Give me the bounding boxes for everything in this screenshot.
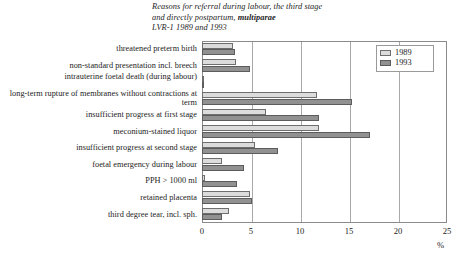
legend-label-1993: 1993 — [395, 58, 412, 67]
legend-item-1993: 1993 — [380, 58, 430, 67]
y-axis-label: non-standard presentation incl. breech — [1, 61, 197, 70]
bar-1989 — [202, 142, 255, 148]
bar-1989 — [202, 109, 266, 115]
chart-title-line-1: Reasons for referral during labour, the … — [152, 2, 452, 13]
bar-1989 — [202, 43, 233, 49]
bar-1993 — [202, 82, 204, 88]
bar-1989 — [202, 191, 250, 197]
y-axis-label: insufficient progress at second stage — [1, 143, 197, 152]
bar-1989 — [202, 158, 222, 164]
bar-group — [202, 76, 447, 93]
legend-item-1989: 1989 — [380, 48, 430, 57]
y-axis-label: insufficient progress at first stage — [1, 110, 197, 119]
bar-1989 — [202, 125, 319, 131]
bar-group — [202, 208, 447, 225]
bar-group — [202, 175, 447, 192]
bar-1993 — [202, 99, 352, 105]
legend-swatch-1993-icon — [380, 60, 391, 66]
x-axis-tick-25: 25 — [435, 226, 459, 236]
y-axis-label: retained placenta — [1, 193, 197, 202]
legend-swatch-1989-icon — [380, 50, 391, 56]
bar-1989 — [202, 59, 236, 65]
y-axis-label: long-term rupture of membranes without c… — [1, 89, 197, 108]
y-axis-label: third degree tear, incl. sph. — [1, 210, 197, 219]
chart-title-line-2: and directly postpartum, multiparae — [152, 13, 452, 24]
y-axis-label: foetal emergency during labour — [1, 160, 197, 169]
bar-1993 — [202, 49, 235, 55]
bar-1993 — [202, 148, 278, 154]
x-axis-tick-5: 5 — [239, 226, 263, 236]
bar-1989 — [202, 92, 317, 98]
bar-group — [202, 92, 447, 109]
bar-1993 — [202, 198, 252, 204]
y-axis-label: intrauterine foetal death (during labour… — [1, 72, 197, 81]
y-axis-label: meconium-stained liquor — [1, 127, 197, 136]
chart-title-line-2-text: and directly postpartum, — [152, 13, 238, 22]
x-axis-tick-labels: 0510152025 — [0, 226, 460, 240]
x-axis-tick-15: 15 — [337, 226, 361, 236]
bar-1993 — [202, 165, 244, 171]
bar-1993 — [202, 181, 237, 187]
x-axis-tick-10: 10 — [288, 226, 312, 236]
bar-1993 — [202, 66, 250, 72]
bar-group — [202, 191, 447, 208]
bar-1993 — [202, 214, 222, 220]
bar-1993 — [202, 115, 319, 121]
x-axis-tick-0: 0 — [190, 226, 214, 236]
bar-group — [202, 142, 447, 159]
chart-title: Reasons for referral during labour, the … — [152, 2, 452, 34]
bar-1993 — [202, 132, 370, 138]
bar-1989 — [202, 208, 229, 214]
bar-1989 — [202, 175, 205, 181]
chart-title-emphasis: multiparae — [238, 13, 276, 22]
x-axis-tick-20: 20 — [386, 226, 410, 236]
chart-figure: Reasons for referral during labour, the … — [0, 0, 460, 263]
y-axis-label: threatened preterm birth — [1, 44, 197, 53]
bar-group — [202, 158, 447, 175]
chart-legend: 1989 1993 — [376, 45, 434, 72]
y-axis-category-labels: threatened preterm birthnon-standard pre… — [0, 41, 200, 223]
bar-group — [202, 109, 447, 126]
y-axis-label: PPH > 1000 ml — [1, 176, 197, 185]
legend-label-1989: 1989 — [395, 48, 412, 57]
bar-1989 — [202, 76, 204, 82]
chart-title-line-3: LVR-1 1989 and 1993 — [152, 23, 452, 34]
x-axis-unit-label: % — [437, 240, 444, 250]
bar-group — [202, 125, 447, 142]
